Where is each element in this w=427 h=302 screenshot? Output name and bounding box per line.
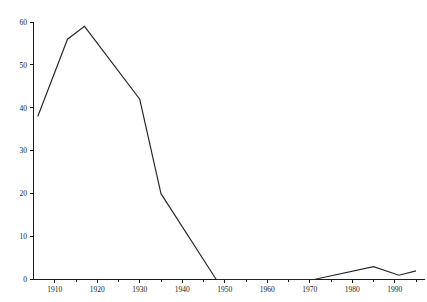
x-tick-label-1910: 1910: [47, 285, 62, 294]
x-tick-label-1970: 1970: [302, 285, 317, 294]
chart-container: 0102030405060 19101920193019401950196019…: [0, 0, 427, 302]
y-tick-label-10: 10: [20, 232, 28, 241]
x-tick-label-1940: 1940: [175, 285, 190, 294]
y-tick-label-60: 60: [20, 18, 28, 27]
y-axis: 0102030405060: [20, 18, 34, 285]
x-tick-label-1990: 1990: [387, 285, 402, 294]
y-tick-label-50: 50: [20, 61, 28, 70]
x-tick-label-1960: 1960: [260, 285, 275, 294]
series-line-1: [38, 26, 416, 279]
data-series-group: [38, 26, 416, 279]
x-tick-label-1980: 1980: [345, 285, 360, 294]
y-tick-label-30: 30: [20, 146, 28, 155]
line-chart: 0102030405060 19101920193019401950196019…: [0, 0, 427, 302]
x-axis: 191019201930194019501960197019801990: [34, 280, 425, 295]
x-tick-label-1930: 1930: [132, 285, 147, 294]
y-tick-label-40: 40: [20, 104, 28, 113]
x-tick-label-1950: 1950: [217, 285, 232, 294]
y-tick-label-20: 20: [20, 189, 28, 198]
y-tick-label-0: 0: [23, 275, 27, 284]
x-tick-label-1920: 1920: [90, 285, 105, 294]
